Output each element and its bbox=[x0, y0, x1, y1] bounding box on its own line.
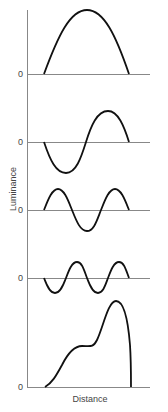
curve-panel-1 bbox=[44, 10, 129, 74]
x-axis-label: Distance bbox=[60, 394, 120, 404]
luminance-diagram: 0 0 0 0 0 Luminance Distance bbox=[0, 0, 168, 412]
curve-panel-4 bbox=[44, 262, 129, 293]
zero-label-2: 0 bbox=[13, 137, 23, 147]
y-axis-label: Luminance bbox=[8, 164, 18, 214]
plot-canvas bbox=[0, 0, 168, 412]
zero-label-1: 0 bbox=[13, 69, 23, 79]
curve-panel-5 bbox=[45, 301, 131, 387]
zero-label-4: 0 bbox=[13, 273, 23, 283]
zero-label-5: 0 bbox=[13, 382, 23, 392]
